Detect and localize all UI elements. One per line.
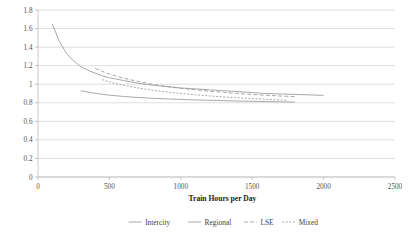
y-tick-label-0: 0 bbox=[29, 174, 33, 182]
x-tick-label-0: 0 bbox=[36, 183, 40, 191]
x-tick-label-2: 1000 bbox=[174, 183, 189, 191]
series-line-intercity bbox=[52, 24, 323, 95]
y-tick-label-4: 0.8 bbox=[24, 99, 33, 107]
x-tick-label-3: 1500 bbox=[245, 183, 260, 191]
x-tick-label-4: 2000 bbox=[316, 183, 331, 191]
y-tick-label-3: 0.6 bbox=[24, 118, 33, 126]
line-chart: 00.20.40.60.811.21.41.61.805001000150020… bbox=[0, 0, 414, 238]
x-axis-title: Train Hours per Day bbox=[189, 194, 257, 203]
y-tick-label-9: 1.8 bbox=[24, 7, 33, 15]
series-line-lse bbox=[95, 68, 295, 96]
y-tick-label-7: 1.4 bbox=[24, 44, 33, 52]
legend-label-mixed: Mixed bbox=[299, 218, 319, 227]
legend-label-lse: LSE bbox=[260, 218, 274, 227]
legend-label-intercity: Intercity bbox=[145, 218, 170, 227]
y-tick-label-6: 1.2 bbox=[24, 62, 33, 70]
y-tick-label-1: 0.2 bbox=[24, 155, 33, 163]
y-tick-label-5: 1 bbox=[29, 81, 33, 89]
x-tick-label-1: 500 bbox=[104, 183, 115, 191]
y-tick-label-2: 0.4 bbox=[24, 136, 33, 144]
series-line-regional bbox=[81, 91, 295, 102]
legend-label-regional: Regional bbox=[205, 218, 232, 227]
x-tick-label-5: 2500 bbox=[388, 183, 403, 191]
chart-canvas: 00.20.40.60.811.21.41.61.805001000150020… bbox=[0, 0, 414, 238]
y-tick-label-8: 1.6 bbox=[24, 25, 33, 33]
